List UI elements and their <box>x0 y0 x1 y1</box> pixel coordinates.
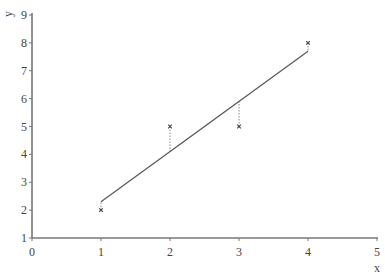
x-tick-label: 5 <box>374 245 380 259</box>
y-tick-label: 5 <box>21 120 27 134</box>
fit-line <box>101 51 308 202</box>
x-tick-label: 0 <box>29 245 35 259</box>
x-axis-label: x <box>374 261 380 275</box>
x-tick-label: 4 <box>305 245 311 259</box>
regression-line <box>101 51 308 202</box>
scatter-regression-chart: 012345123456789 y x <box>0 0 385 278</box>
y-tick-label: 2 <box>21 203 27 217</box>
x-tick-label: 2 <box>167 245 173 259</box>
y-tick-label: 6 <box>21 92 27 106</box>
y-axis-label: y <box>1 11 15 17</box>
axes: 012345123456789 <box>21 8 380 259</box>
y-tick-label: 4 <box>21 147 27 161</box>
x-tick-label: 1 <box>98 245 104 259</box>
y-tick-label: 3 <box>21 175 27 189</box>
y-tick-label: 7 <box>21 64 27 78</box>
y-tick-label: 1 <box>21 231 27 245</box>
y-tick-label: 9 <box>21 8 27 22</box>
y-tick-label: 8 <box>21 36 27 50</box>
x-tick-label: 3 <box>236 245 242 259</box>
